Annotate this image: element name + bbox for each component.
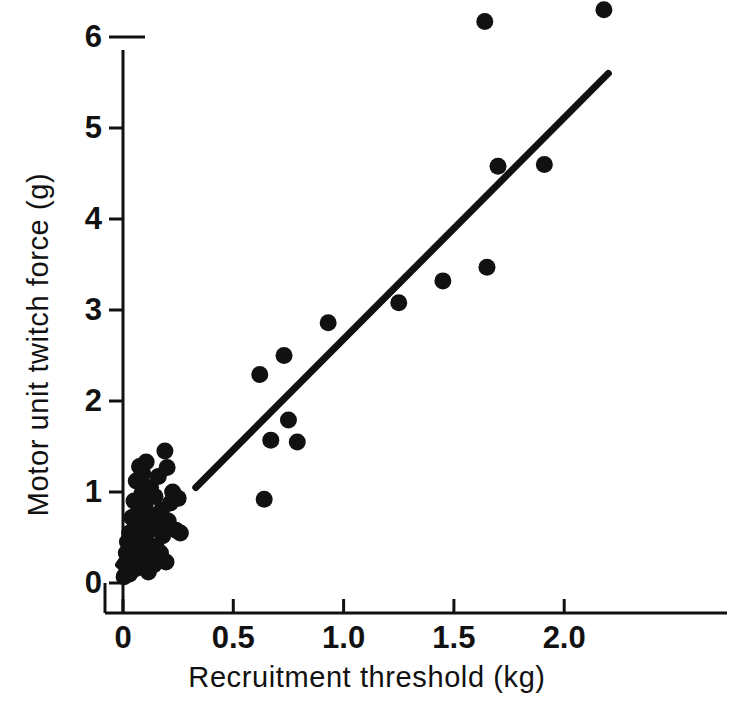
y-tick-label: 5 xyxy=(62,110,102,146)
regression-line-segment xyxy=(196,73,609,487)
data-point xyxy=(289,433,306,450)
data-point xyxy=(478,259,495,276)
x-tick-label: 0 xyxy=(114,620,131,656)
scatter-chart-figure: 0123456 00.51.01.52.0 Motor unit twitch … xyxy=(0,0,734,713)
data-point xyxy=(280,412,297,429)
data-point xyxy=(276,347,293,364)
data-point xyxy=(595,1,612,18)
data-points xyxy=(116,1,613,585)
y-axis-title: Motor unit twitch force (g) xyxy=(22,85,55,605)
data-point xyxy=(251,366,268,383)
plot-canvas xyxy=(0,0,734,713)
x-tick-label: 2.0 xyxy=(543,620,586,656)
data-point xyxy=(256,491,273,508)
data-point xyxy=(170,490,187,507)
data-point xyxy=(320,314,337,331)
data-point xyxy=(262,432,279,449)
y-tick-label: 0 xyxy=(62,565,102,601)
y-tick-label: 3 xyxy=(62,292,102,328)
x-axis-ticks xyxy=(105,583,564,613)
x-tick-label: 1.0 xyxy=(322,620,365,656)
data-point xyxy=(490,158,507,175)
x-tick-label: 1.5 xyxy=(432,620,475,656)
x-tick-label: 0.5 xyxy=(212,620,255,656)
data-point xyxy=(159,459,176,476)
y-tick-label: 1 xyxy=(62,474,102,510)
data-point xyxy=(390,294,407,311)
y-tick-label: 6 xyxy=(62,19,102,55)
data-point xyxy=(172,524,189,541)
y-tick-label: 2 xyxy=(62,383,102,419)
data-point xyxy=(434,272,451,289)
x-axis-title: Recruitment threshold (kg) xyxy=(0,661,734,694)
data-point xyxy=(138,453,155,470)
axis-lines xyxy=(105,50,727,613)
data-point xyxy=(536,156,553,173)
data-point xyxy=(156,443,173,460)
regression-line xyxy=(196,73,609,487)
data-point xyxy=(476,13,493,30)
y-tick-label: 4 xyxy=(62,201,102,237)
data-point xyxy=(158,554,175,571)
